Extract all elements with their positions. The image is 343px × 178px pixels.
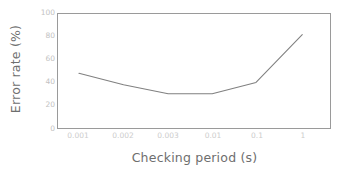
plot-area bbox=[57, 13, 331, 129]
y-tick-label-0: 0 bbox=[15, 125, 55, 133]
x-tick-label-1: 0.002 bbox=[101, 132, 145, 140]
y-tick-label-40: 40 bbox=[15, 78, 55, 86]
y-axis-title: Error rate (%) bbox=[4, 4, 26, 134]
y-tick-label-100: 100 bbox=[15, 9, 55, 17]
chart-figure: Error rate (%) 100 80 60 40 20 0 0.001 0… bbox=[0, 0, 343, 178]
y-tick-label-20: 20 bbox=[15, 101, 55, 109]
x-axis-title: Checking period (s) bbox=[57, 150, 332, 165]
x-tick-label-4: 0.1 bbox=[235, 132, 279, 140]
x-tick-label-2: 0.003 bbox=[146, 132, 190, 140]
data-line-error-rate bbox=[79, 35, 302, 94]
x-tick-label-5: 1 bbox=[281, 132, 325, 140]
x-tick-label-3: 0.01 bbox=[191, 132, 235, 140]
line-series-svg bbox=[58, 14, 330, 128]
x-tick-label-0: 0.001 bbox=[56, 132, 100, 140]
y-tick-label-60: 60 bbox=[15, 55, 55, 63]
y-tick-label-80: 80 bbox=[15, 32, 55, 40]
